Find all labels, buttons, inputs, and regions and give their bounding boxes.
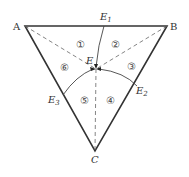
e3-label: E3 — [47, 94, 60, 107]
arrow-icon — [94, 64, 98, 69]
vertex-c-label: C — [91, 154, 99, 165]
dashed-line-c — [95, 69, 96, 151]
vertex-b-label: B — [170, 21, 177, 32]
center-e-label: E — [85, 55, 94, 66]
region-1-label: ① — [76, 39, 85, 50]
region-5-label: ⑤ — [80, 95, 89, 106]
region-3-label: ③ — [127, 61, 136, 72]
triangle-abc — [25, 26, 167, 151]
region-6-label: ⑥ — [60, 62, 69, 73]
arc-e1 — [96, 26, 104, 67]
region-4-label: ④ — [106, 95, 115, 106]
vertex-a-label: A — [12, 21, 21, 32]
e1-label: E1 — [99, 11, 112, 24]
triangle-diagram: A B C E1 E2 E3 E ① ② ③ ④ ⑤ ⑥ — [0, 0, 189, 177]
e2-label: E2 — [135, 85, 148, 98]
region-2-label: ② — [111, 39, 120, 50]
